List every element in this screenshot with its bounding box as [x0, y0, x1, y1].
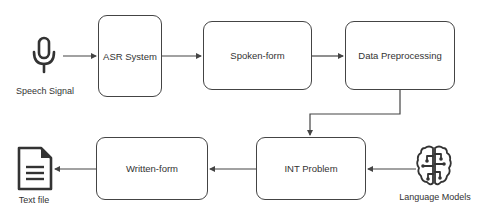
int-problem-node: INT Problem [256, 137, 366, 200]
microphone-icon [31, 36, 57, 74]
edge-preproc-to-int [310, 90, 400, 135]
document-icon [17, 146, 53, 191]
spoken-form-node: Spoken-form [203, 21, 312, 90]
asr-system-label: ASR System [103, 51, 157, 62]
language-models-label: Language Models [399, 192, 471, 202]
speech-signal-label: Speech Signal [16, 86, 74, 96]
text-file-label: Text file [19, 195, 50, 205]
int-problem-label: INT Problem [284, 163, 337, 174]
brain-circuit-icon [415, 144, 453, 187]
data-preprocessing-node: Data Preprocessing [345, 21, 455, 90]
written-form-node: Written-form [96, 137, 208, 200]
spoken-form-label: Spoken-form [230, 50, 284, 61]
written-form-label: Written-form [126, 163, 178, 174]
data-preprocessing-label: Data Preprocessing [358, 50, 441, 61]
asr-system-node: ASR System [98, 15, 162, 97]
